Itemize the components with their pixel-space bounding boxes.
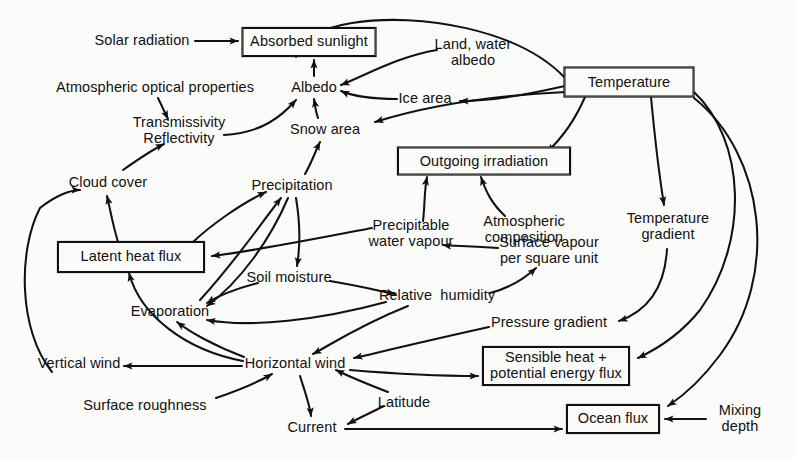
edge-horizontal-wind-to-current	[300, 376, 311, 416]
edge-relative-humidity-to-evaporation	[207, 302, 386, 323]
node-temperature: Temperature	[565, 68, 694, 97]
edge-latent-heat-flux-to-cloud-cover	[107, 196, 118, 242]
node-transmissivity: Transmissivity Reflectivity	[133, 115, 226, 146]
node-precipitable-water: Precipitable water vapour	[368, 218, 453, 249]
edge-pressure-gradient-to-horizontal-wind	[354, 327, 489, 358]
node-horizontal-wind: Horizontal wind	[245, 356, 346, 372]
edge-precipitable-water-to-latent-heat-flux	[212, 228, 372, 256]
node-vertical-wind: Vertical wind	[38, 356, 121, 372]
edge-transmissivity-to-albedo	[224, 100, 296, 135]
node-surface-roughness: Surface roughness	[83, 398, 206, 414]
edge-horizontal-wind-to-sensible-heat-flux	[350, 370, 478, 376]
edge-temperature-to-ocean-flux	[668, 98, 757, 406]
climate-feedback-diagram: Solar radiationAbsorbed sunlightAtmosphe…	[0, 0, 795, 460]
node-albedo: Albedo	[291, 80, 337, 96]
edge-relative-humidity-to-surface-vapour	[490, 268, 536, 293]
edge-surface-roughness-to-horizontal-wind	[216, 374, 272, 398]
edge-vertical-wind-to-cloud-cover	[25, 190, 80, 372]
edge-latent-heat-flux-to-precipitation	[193, 192, 266, 242]
node-snow-area: Snow area	[290, 122, 360, 138]
node-relative-humidity: Relative humidity	[379, 288, 495, 304]
node-current: Current	[287, 420, 336, 436]
node-cloud-cover: Cloud cover	[69, 175, 147, 191]
edge-precipitation-to-soil-moisture	[296, 198, 299, 266]
node-evaporation: Evaporation	[131, 304, 210, 320]
edge-temperature-to-temperature-gradient	[651, 97, 664, 205]
node-precipitation: Precipitation	[251, 178, 332, 194]
edge-atmospheric-composition-to-outgoing-irradiation	[481, 177, 505, 216]
node-absorbed-sunlight: Absorbed sunlight	[243, 28, 376, 56]
node-latent-heat-flux: Latent heat flux	[58, 242, 204, 272]
edge-ice-area-to-albedo	[341, 91, 397, 99]
node-ocean-flux: Ocean flux	[567, 405, 659, 433]
edge-temperature-to-outgoing-irradiation	[547, 97, 585, 152]
node-temperature-gradient: Temperature gradient	[627, 211, 710, 242]
node-surface-vapour: Surface vapour per square unit	[499, 235, 599, 266]
edge-snow-area-to-albedo	[314, 99, 318, 118]
edge-relative-humidity-to-horizontal-wind	[313, 306, 408, 354]
edge-precipitation-to-snow-area	[305, 142, 320, 174]
edge-precipitation-to-evaporation	[207, 198, 288, 306]
edge-cloud-cover-to-transmissivity	[123, 144, 164, 170]
node-sensible-heat-flux: Sensible heat + potential energy flux	[483, 347, 629, 385]
edge-precipitable-water-to-outgoing-irradiation	[423, 177, 427, 221]
node-solar-radiation: Solar radiation	[95, 33, 190, 49]
edge-temperature-gradient-to-pressure-gradient	[619, 249, 667, 321]
node-soil-moisture: Soil moisture	[246, 270, 331, 286]
node-outgoing-irradiation: Outgoing irradiation	[398, 148, 570, 175]
node-atmospheric-optical: Atmospheric optical properties	[56, 80, 254, 96]
node-land-water-albedo: Land, water albedo	[435, 37, 512, 68]
node-mixing-depth: Mixing depth	[719, 403, 762, 434]
node-ice-area: Ice area	[398, 91, 451, 107]
node-pressure-gradient: Pressure gradient	[491, 315, 607, 331]
node-latitude: Latitude	[378, 395, 430, 411]
